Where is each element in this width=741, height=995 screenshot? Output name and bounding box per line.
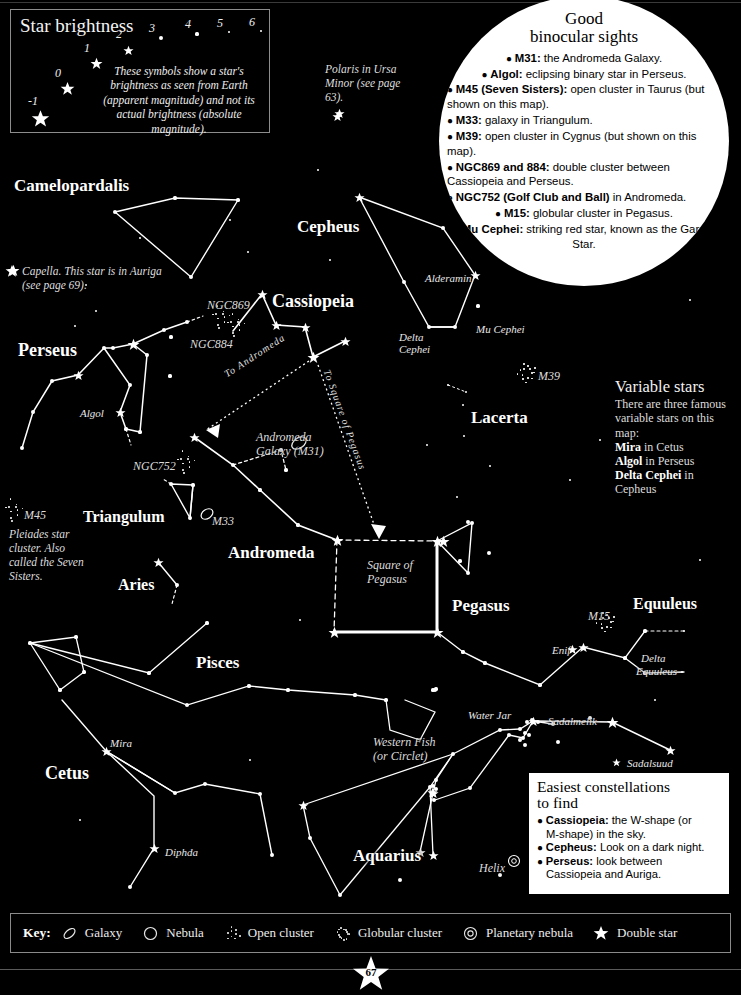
key-item: Nebula xyxy=(142,925,204,942)
easiest-item-name: Cassiopeia: xyxy=(546,814,609,826)
star-marker xyxy=(31,410,35,414)
star-marker xyxy=(258,488,261,491)
binocular-item-desc: eclipsing binary star in Perseus. xyxy=(523,68,687,80)
magnitude-0-label: 0 xyxy=(55,66,61,81)
star-marker xyxy=(527,733,531,737)
star-marker xyxy=(689,299,691,301)
constellation-label-pegasus: Pegasus xyxy=(452,596,510,616)
star-marker xyxy=(398,878,402,882)
star-label-cephei: Cephei xyxy=(399,343,430,355)
star-label-sadalmelik: Sadalmelik xyxy=(548,715,597,727)
page-number: 67 xyxy=(352,966,390,978)
magnitude-6-label: 6 xyxy=(249,15,255,30)
star-marker xyxy=(205,621,208,624)
m45-open-cluster-icon xyxy=(3,499,25,521)
planetary-nebula-icon xyxy=(462,925,479,942)
m39-open-cluster-icon xyxy=(516,362,538,384)
star-marker xyxy=(483,661,486,664)
deepsky-label-m33: M33 xyxy=(212,514,234,529)
to-pegasus-arrowhead xyxy=(371,524,386,539)
map-label-line1: Western Fish xyxy=(373,736,436,750)
star-marker xyxy=(432,798,436,802)
binocular-item-name: NGC869 and 884: xyxy=(456,161,550,173)
pleiades-note: Pleiades star cluster. Also called the S… xyxy=(9,527,85,583)
bullet-icon: ● xyxy=(537,842,546,853)
star-marker xyxy=(599,439,601,441)
constellation-label-cassiopeia: Cassiopeia xyxy=(272,291,354,312)
binocular-item: ● NGC752 (Golf Club and Ball) in Androme… xyxy=(447,190,721,205)
star-marker xyxy=(434,687,437,690)
easiest-item-desc: Look on a dark night. xyxy=(597,841,705,853)
bullet-icon: ● xyxy=(495,208,504,219)
magnitude-2-star-icon xyxy=(123,42,134,60)
star-label-delta: Delta xyxy=(641,652,665,664)
star-marker xyxy=(353,693,356,696)
easiest-item-desc-cont: M-shape) in the sky. xyxy=(537,828,721,842)
magnitude--1-star-icon xyxy=(31,109,50,132)
star-marker xyxy=(139,237,141,239)
star-marker xyxy=(458,559,461,562)
key-item-label: Galaxy xyxy=(85,925,123,941)
bullet-icon: ● xyxy=(537,856,546,867)
star-marker xyxy=(683,630,686,633)
star-marker xyxy=(434,778,438,782)
star-marker xyxy=(247,684,250,687)
star-marker xyxy=(402,280,406,284)
to-pegasus-line xyxy=(318,365,377,533)
star-marker xyxy=(169,335,172,338)
magnitude-5-label: 5 xyxy=(217,16,223,31)
map-label-line1: Andromeda xyxy=(256,431,324,445)
key-item-label: Open cluster xyxy=(248,925,314,941)
easiest-item: ● Cassiopeia: the W-shape (orM-shape) in… xyxy=(537,814,721,841)
constellation-label-andromeda: Andromeda xyxy=(228,543,315,563)
constellation-label-pisces: Pisces xyxy=(196,653,239,673)
magnitude-4-star-icon xyxy=(195,32,198,35)
star-marker xyxy=(518,727,522,731)
star-marker xyxy=(523,743,527,747)
variable-star-entry: Mira in Cetus xyxy=(615,440,737,454)
star-marker xyxy=(447,384,450,387)
star-marker xyxy=(82,670,85,673)
binocular-item-name: M45 (Seven Sisters): xyxy=(456,83,567,95)
to-andromeda-arrowhead xyxy=(206,424,220,438)
star-marker xyxy=(498,728,502,732)
open-cluster-icon xyxy=(224,925,241,942)
star-marker xyxy=(162,328,166,332)
star-marker xyxy=(95,310,98,313)
star-marker xyxy=(299,619,301,621)
star-marker xyxy=(338,893,342,897)
star-marker xyxy=(623,656,626,659)
star-label-algol: Algol xyxy=(80,407,104,419)
easiest-item-desc: look between xyxy=(593,855,662,867)
easiest-item-name: Cepheus: xyxy=(546,841,597,853)
star-label-delta: Delta xyxy=(399,331,423,343)
easiest-item-desc: the W-shape (or xyxy=(609,814,692,826)
deepsky-label-m15: M15 xyxy=(588,609,610,624)
easiest-item: ● Perseus: look betweenCassiopeia and Au… xyxy=(537,855,721,882)
constellation-label-cetus: Cetus xyxy=(45,763,89,784)
magnitude-3-label: 3 xyxy=(149,21,155,36)
globular-cluster-icon xyxy=(334,925,351,942)
key-item-label: Globular cluster xyxy=(358,925,442,941)
star-marker xyxy=(643,629,646,632)
star-marker xyxy=(431,784,435,788)
star-marker xyxy=(476,304,479,307)
key-item: Double star xyxy=(593,925,677,942)
variable-star-name: Delta Cephei xyxy=(615,468,681,482)
star-chart-page: Star brightness -10123456 These symbols … xyxy=(0,0,741,995)
magnitude-6-star-icon xyxy=(260,30,262,32)
star-marker xyxy=(453,325,457,329)
star-label-alderamin: Alderamin xyxy=(425,272,471,284)
binocular-item: ● M31: the Andromeda Galaxy. xyxy=(447,51,721,66)
key-item: Globular cluster xyxy=(334,925,442,942)
star-marker xyxy=(470,521,474,525)
star-marker xyxy=(188,516,192,520)
variable-stars-intro: There are three famous variable stars on… xyxy=(615,397,737,439)
deepsky-label-ngc884: NGC884 xyxy=(190,337,233,352)
ngc884-open-cluster-icon xyxy=(225,314,247,336)
key-item: Open cluster xyxy=(224,925,314,942)
variable-star-name: Algol xyxy=(615,454,642,468)
constellation-label-lacerta: Lacerta xyxy=(471,408,528,428)
star-marker xyxy=(507,733,511,737)
star-marker xyxy=(463,435,466,438)
